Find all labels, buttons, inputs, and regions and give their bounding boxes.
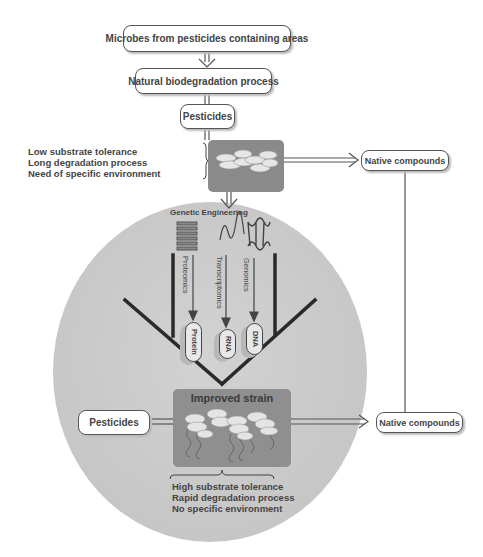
natural-biodegradation-box: Natural biodegradation process xyxy=(135,68,272,94)
genomics-label: Genomics xyxy=(242,258,251,292)
trait-low-substrate: Low substrate tolerance xyxy=(28,146,161,157)
arrow-strain-to-native-top xyxy=(284,153,358,167)
trait-specific-env: Need of specific environment xyxy=(28,168,161,179)
pesticides-top-box: Pesticides xyxy=(180,104,235,129)
genetic-engineering-label: Genetic Engineering xyxy=(170,207,248,218)
proteomics-label: Proteomics xyxy=(181,256,190,294)
wild-strain-traits: Low substrate tolerance Long degradation… xyxy=(28,146,161,179)
arrow-natural-to-pesticides xyxy=(205,94,209,104)
rna-pill: RNA xyxy=(219,329,236,359)
native-compounds-top-box: Native compounds xyxy=(361,150,449,171)
improved-strain-box: Improved strain xyxy=(173,389,291,467)
native-compounds-bottom-box: Native compounds xyxy=(376,412,463,433)
trait-no-specific-env: No specific environment xyxy=(172,503,294,514)
trait-high-substrate: High substrate tolerance xyxy=(172,481,294,492)
microbes-box: Microbes from pesticides containing area… xyxy=(123,25,291,52)
trait-long-degradation: Long degradation process xyxy=(28,157,161,168)
protein-pill: Protein xyxy=(185,322,202,362)
wild-strain-box xyxy=(208,140,284,192)
arrow-microbes-to-natural xyxy=(199,52,215,67)
improved-bacteria-icon xyxy=(173,389,291,467)
trait-rapid-degradation: Rapid degradation process xyxy=(172,492,294,503)
pesticides-bottom-box: Pesticides xyxy=(78,410,150,435)
arrow-pesticides-to-strain xyxy=(205,129,209,140)
bacteria-cluster-icon xyxy=(208,140,284,192)
improved-strain-traits: High substrate tolerance Rapid degradati… xyxy=(172,481,294,514)
transcriptomics-label: Transcriptomics xyxy=(215,256,224,309)
dna-pill: DNA xyxy=(246,323,263,355)
